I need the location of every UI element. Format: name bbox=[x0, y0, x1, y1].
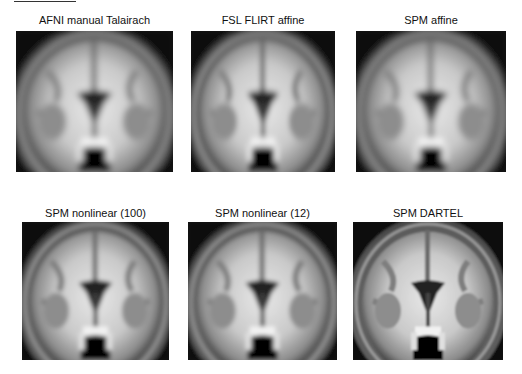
brain-coronal-icon bbox=[353, 222, 503, 360]
brain-slice-image bbox=[356, 31, 506, 172]
brain-slice-image bbox=[16, 31, 173, 172]
panel-fsl-flirt-affine: FSL FLIRT affine bbox=[191, 14, 335, 172]
panel-title: SPM nonlinear (12) bbox=[188, 207, 337, 219]
brain-slice-image bbox=[353, 222, 503, 360]
panel-afni-manual-talairach: AFNI manual Talairach bbox=[16, 14, 173, 172]
panel-title: AFNI manual Talairach bbox=[16, 14, 173, 26]
panel-title: SPM nonlinear (100) bbox=[22, 207, 169, 219]
panel-title: FSL FLIRT affine bbox=[191, 14, 335, 26]
brain-coronal-icon bbox=[191, 31, 335, 172]
brain-coronal-icon bbox=[16, 31, 173, 172]
panel-spm-dartel: SPM DARTEL bbox=[353, 207, 503, 360]
brain-coronal-icon bbox=[356, 31, 506, 172]
brain-slice-image bbox=[188, 222, 337, 360]
header-rule bbox=[14, 1, 76, 2]
brain-coronal-icon bbox=[188, 222, 337, 360]
brain-slice-image bbox=[22, 222, 169, 360]
brain-coronal-icon bbox=[22, 222, 169, 360]
panel-spm-nonlinear-100: SPM nonlinear (100) bbox=[22, 207, 169, 360]
panel-title: SPM DARTEL bbox=[353, 207, 503, 219]
brain-slice-image bbox=[191, 31, 335, 172]
panel-spm-nonlinear-12: SPM nonlinear (12) bbox=[188, 207, 337, 360]
panel-spm-affine: SPM affine bbox=[356, 14, 506, 172]
panel-title: SPM affine bbox=[356, 14, 506, 26]
